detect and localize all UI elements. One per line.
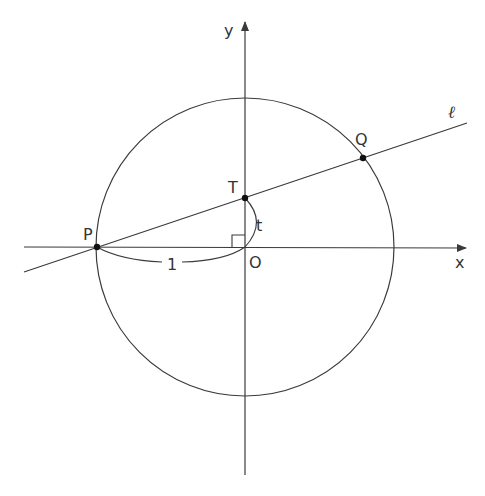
point-p-label: P xyxy=(83,225,93,244)
point-q xyxy=(360,155,366,161)
point-p xyxy=(94,244,100,250)
brace-1-right xyxy=(182,247,245,262)
brace-1-left xyxy=(97,247,162,262)
y-axis-label: y xyxy=(224,21,233,40)
origin-label: O xyxy=(249,253,262,272)
measure-1-label: 1 xyxy=(167,255,177,274)
point-t xyxy=(242,195,248,201)
measure-t-label: t xyxy=(256,216,262,235)
brace-t xyxy=(245,198,257,247)
x-axis-label: x xyxy=(455,253,464,272)
line-l-label: ℓ xyxy=(448,102,455,122)
point-t-label: T xyxy=(227,178,238,197)
right-angle-marker xyxy=(232,235,245,247)
diagram-canvas: y x O P T Q ℓ t 1 xyxy=(0,0,485,496)
point-q-label: Q xyxy=(355,130,368,149)
